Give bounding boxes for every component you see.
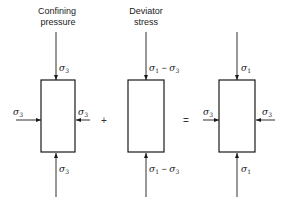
specimen-box-2 (128, 80, 164, 152)
label-top-3: σ1 (241, 63, 251, 74)
label-right-3: σ3 (262, 107, 272, 118)
panel-deviator-stress: Deviator stress σ1 − σ3 σ1 − σ3 (128, 6, 179, 197)
triaxial-stress-diagram: Confining pressure σ3 σ3 σ3 σ3 + Deviato… (0, 0, 289, 205)
label-left-1: σ3 (13, 107, 23, 118)
label-left-3: σ3 (203, 107, 213, 118)
label-bottom-3: σ1 (241, 164, 251, 175)
panel-1-title-line2: pressure (40, 17, 75, 27)
panel-1-title-line1: Confining (38, 6, 76, 16)
panel-2-title-line1: Deviator (129, 6, 163, 16)
label-right-1: σ3 (78, 107, 88, 118)
panel-confining-pressure: Confining pressure σ3 σ3 σ3 σ3 (13, 6, 90, 197)
label-top-2: σ1 − σ3 (149, 63, 179, 74)
plus-operator: + (101, 115, 107, 126)
equals-operator: = (183, 115, 189, 126)
specimen-box-3 (219, 80, 255, 152)
panel-total-stress: σ1 σ1 σ3 σ3 (203, 32, 275, 197)
specimen-box-1 (41, 80, 75, 152)
label-top-1: σ3 (59, 63, 69, 74)
panel-2-title-line2: stress (134, 17, 159, 27)
label-bottom-2: σ1 − σ3 (149, 164, 179, 175)
label-bottom-1: σ3 (59, 164, 69, 175)
